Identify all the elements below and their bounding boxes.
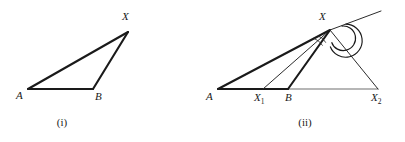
panel-i-group: A B X (i)	[15, 10, 130, 129]
angle-arc-large-at-X	[330, 24, 362, 57]
panel-ii-group: A X1 B X2 X (ii)	[205, 10, 382, 129]
vertex-label-X: X	[121, 10, 130, 22]
segment-A-X	[28, 32, 128, 89]
vertex-label-X1-subscript: 1	[261, 97, 265, 106]
vertex-label-B: B	[95, 90, 102, 102]
vertex-label-X1: X1	[253, 91, 265, 106]
segment-A-X	[218, 30, 330, 89]
vertex-label-X: X	[318, 10, 327, 22]
vertex-label-A: A	[205, 90, 213, 102]
segment-B-X	[288, 30, 330, 89]
segment-X2-X	[330, 30, 378, 89]
caption-panel-i: (i)	[57, 116, 68, 129]
vertex-label-X2: X2	[370, 91, 382, 106]
vertex-label-A: A	[15, 89, 23, 101]
segment-B-X	[93, 32, 128, 89]
caption-panel-ii: (ii)	[298, 116, 312, 129]
vertex-label-X2-subscript: 2	[378, 97, 382, 106]
geometry-figure-root: A B X (i) A X1 B	[0, 0, 405, 142]
vertex-label-B: B	[285, 91, 292, 103]
figure-canvas: A B X (i) A X1 B	[0, 0, 405, 142]
